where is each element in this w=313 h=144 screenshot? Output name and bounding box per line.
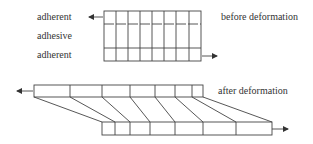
label-after-deformation: after deformation (218, 85, 288, 96)
label-adhesive: adhesive (37, 30, 73, 41)
label-top-adherent: adherent (37, 11, 72, 22)
before-deformation-block (104, 11, 201, 61)
label-before-deformation: before deformation (221, 11, 298, 22)
adhesive-deformation-diagram: adherent adhesive adherent before deform… (0, 0, 313, 144)
label-bottom-adherent: adherent (37, 49, 72, 60)
